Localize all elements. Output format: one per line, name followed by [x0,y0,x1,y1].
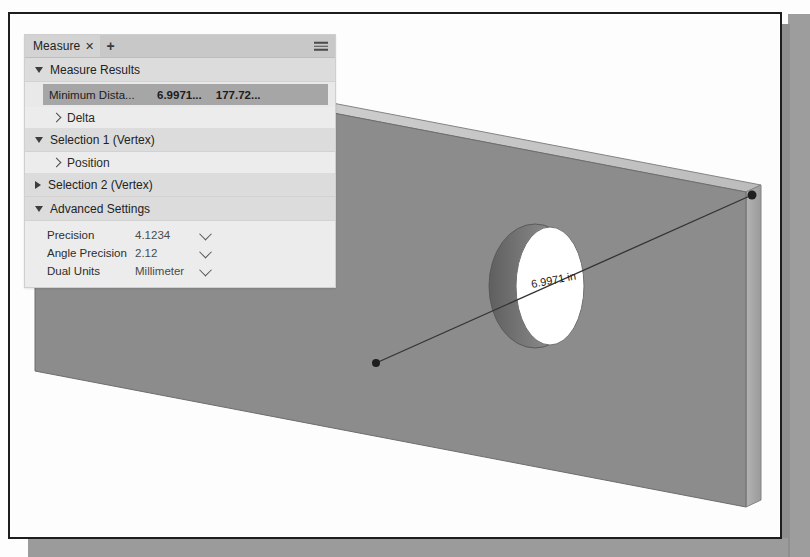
3d-viewport[interactable]: 6.9971 in Measure ✕ + [10,14,780,537]
tab-measure-label: Measure [33,39,80,53]
chevron-down-icon[interactable] [199,245,212,258]
sub-row-position-label: Position [67,156,110,170]
setting-value-precision[interactable]: 4.1234 [135,229,193,241]
chevron-right-icon [52,113,62,123]
setting-value-angle-precision[interactable]: 2.12 [135,247,193,259]
section-header-selection-2[interactable]: Selection 2 (Vertex) [25,173,335,197]
plate-side-face [746,185,761,507]
setting-row-dual-units: Dual Units Millimeter [25,262,335,280]
advanced-settings-body: Precision 4.1234 Angle Precision 2.12 Du… [25,221,335,287]
section-header-selection-1[interactable]: Selection 1 (Vertex) [25,128,335,152]
setting-value-dual-units[interactable]: Millimeter [135,265,193,277]
panel-tab-strip: Measure ✕ + [25,35,335,58]
setting-row-angle-precision: Angle Precision 2.12 [25,244,335,262]
section-label-selection-1: Selection 1 (Vertex) [50,133,155,147]
section-header-advanced-settings[interactable]: Advanced Settings [25,197,335,221]
measure-result-value-secondary: 177.72... [216,89,261,101]
disclosure-triangle-open-icon [35,67,43,73]
disclosure-triangle-closed-icon [35,181,41,189]
measure-panel: Measure ✕ + Measure Results Minimum Dist… [24,34,336,288]
measure-result-value-primary: 6.9971... [157,89,202,101]
setting-label-precision: Precision [25,229,135,241]
scanned-page: 6.9971 in Measure ✕ + [0,0,810,557]
sub-row-position[interactable]: Position [25,152,335,173]
setting-label-angle-precision: Angle Precision [25,247,135,259]
setting-row-precision: Precision 4.1234 [25,226,335,244]
selection-1-vertex-marker[interactable] [372,359,380,367]
sub-row-delta-label: Delta [67,111,95,125]
setting-label-dual-units: Dual Units [25,265,135,277]
section-label-advanced-settings: Advanced Settings [50,202,150,216]
chevron-right-icon [52,158,62,168]
disclosure-triangle-open-icon [35,206,43,212]
section-header-measure-results[interactable]: Measure Results [25,58,335,82]
hamburger-menu-icon[interactable] [314,42,328,51]
tab-measure[interactable]: Measure ✕ [25,35,100,57]
measure-result-row[interactable]: Minimum Dista... 6.9971... 177.72... [43,84,328,105]
close-icon[interactable]: ✕ [85,41,94,52]
section-label-selection-2: Selection 2 (Vertex) [48,178,153,192]
sub-row-delta[interactable]: Delta [25,107,335,128]
measure-result-name: Minimum Dista... [49,89,157,101]
selection-2-vertex-marker[interactable] [748,191,757,200]
page-bottom-margin [28,538,788,557]
page-right-margin [788,14,810,557]
page-right-margin-shadow [782,24,790,557]
chevron-down-icon[interactable] [199,263,212,276]
disclosure-triangle-open-icon [35,137,43,143]
section-label-measure-results: Measure Results [50,63,140,77]
add-tab-icon[interactable]: + [106,39,114,53]
chevron-down-icon[interactable] [199,227,212,240]
application-window: 6.9971 in Measure ✕ + [8,12,782,539]
